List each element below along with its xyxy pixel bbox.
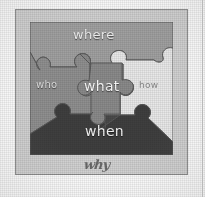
puzzle-figure: where who what how when why <box>0 0 205 197</box>
page-edge-artifact <box>202 0 203 197</box>
puzzle-pieces-graphic <box>30 22 173 155</box>
